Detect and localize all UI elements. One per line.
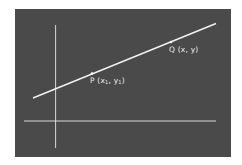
point-q-label: Q (x, y) <box>169 45 198 54</box>
point-p-marker <box>91 72 94 75</box>
point-q-marker <box>170 41 173 44</box>
line-pq <box>33 24 216 99</box>
point-p-label: P (x1, y1) <box>90 76 125 85</box>
